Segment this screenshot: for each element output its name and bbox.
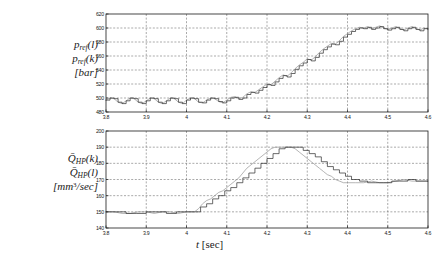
x-tick-label: 4.3 [300,230,314,236]
y-tick-label: 600 [89,25,104,31]
y-tick-label: 180 [89,160,104,166]
x-tick-label: 4.6 [421,230,435,236]
x-tick-label: 3.8 [99,114,113,120]
x-axis-symbol: t [196,238,199,250]
x-axis-unit: [sec] [202,238,223,250]
chart-panel-pressure [106,14,428,112]
x-axis-title: t [sec] [196,238,223,250]
flow-axis-label: Q̄HP(k) Q̄HP(l) [mm3/sec] [53,152,98,193]
y-tick-label: 150 [89,209,104,215]
y-tick-label: 170 [89,177,104,183]
y-tick-label: 160 [89,193,104,199]
x-tick-label: 3.9 [139,114,153,120]
x-tick-label: 3.9 [139,230,153,236]
chart-panel-flow [106,131,428,228]
y-tick-label: 200 [89,128,104,134]
x-tick-label: 4 [180,230,194,236]
y-tick-label: 520 [89,81,104,87]
x-tick-label: 4.3 [300,114,314,120]
x-tick-label: 4.5 [381,114,395,120]
y-tick-label: 190 [89,144,104,150]
y-tick-label: 620 [89,11,104,17]
x-tick-label: 4.5 [381,230,395,236]
x-tick-label: 4.4 [341,114,355,120]
y-tick-label: 580 [89,39,104,45]
x-tick-label: 4 [180,114,194,120]
x-tick-label: 4.1 [220,230,234,236]
figure-canvas [0,0,441,261]
y-tick-label: 500 [89,95,104,101]
x-tick-label: 4.4 [341,230,355,236]
x-tick-label: 4.2 [260,230,274,236]
x-tick-label: 4.6 [421,114,435,120]
y-tick-label: 560 [89,53,104,59]
x-tick-label: 3.8 [99,230,113,236]
x-tick-label: 4.2 [260,114,274,120]
x-tick-label: 4.1 [220,114,234,120]
y-tick-label: 540 [89,67,104,73]
